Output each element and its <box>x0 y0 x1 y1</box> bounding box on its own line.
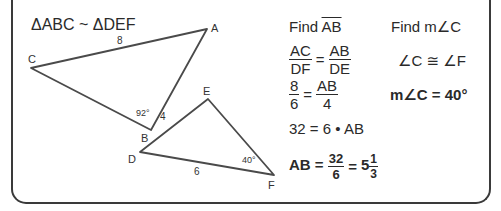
mixed-number: 5 1 3 <box>361 156 378 173</box>
find-angle-c-heading: Find m∠C <box>391 18 461 36</box>
heading-prefix: Find <box>289 18 322 35</box>
segment-ab: AB <box>322 18 342 35</box>
whole-part: 5 <box>361 156 369 173</box>
fraction-ac-df: AC DF <box>289 43 312 76</box>
vertex-label-f: F <box>268 180 275 191</box>
result-lhs: AB = <box>289 156 324 173</box>
side-ca-length: 8 <box>117 36 123 46</box>
fraction-32-6: 32 6 <box>328 152 344 181</box>
find-ab-heading: Find AB <box>289 18 342 35</box>
denominator: DE <box>329 60 350 76</box>
congruence-statement: ∠C ≅ ∠F <box>398 52 466 70</box>
angle-b-measure: 92° <box>136 109 150 118</box>
denominator: 6 <box>332 167 339 181</box>
numerator: 8 <box>289 78 299 95</box>
vertex-label-b: B <box>141 133 148 144</box>
denominator: DF <box>290 60 310 76</box>
numerator: AC <box>289 43 312 60</box>
numerator: 32 <box>328 152 344 167</box>
similarity-statement: ΔABC ~ ΔDEF <box>31 17 136 33</box>
fraction-ab-4: AB 4 <box>316 78 338 111</box>
denominator: 4 <box>323 95 331 111</box>
numerator: AB <box>316 78 338 95</box>
vertex-label-d: D <box>128 154 136 165</box>
side-df-length: 6 <box>194 167 200 177</box>
cross-multiply-equation: 32 = 6 • AB <box>289 120 364 137</box>
vertex-label-c: C <box>28 54 36 65</box>
equals-sign: = <box>348 158 357 175</box>
numerator: AB <box>329 43 351 60</box>
proportion-equation: AC DF = AB DE <box>289 43 351 76</box>
angle-f-measure: 40° <box>242 156 256 165</box>
denominator: 3 <box>370 167 377 180</box>
vertex-label-e: E <box>203 86 210 97</box>
side-ab-length: 4 <box>160 112 166 122</box>
fraction-ab-de: AB DE <box>329 43 351 76</box>
fraction-1-3: 1 3 <box>369 153 378 180</box>
denominator: 6 <box>290 95 298 111</box>
numerator: 1 <box>369 153 378 167</box>
ab-result-equation: AB = 32 6 =5 1 3 <box>289 152 378 181</box>
angle-c-result: m∠C = 40° <box>390 86 467 104</box>
equals-sign: = <box>316 51 325 68</box>
equals-sign: = <box>303 86 312 103</box>
substitution-equation: 8 6 = AB 4 <box>289 78 338 111</box>
vertex-label-a: A <box>211 23 218 34</box>
fraction-8-6: 8 6 <box>289 78 299 111</box>
